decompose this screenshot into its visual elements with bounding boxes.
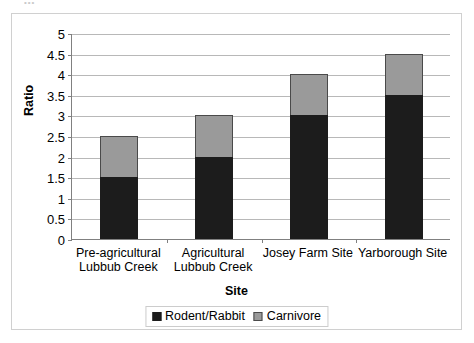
bar-stack[interactable] [195,115,233,239]
y-axis-tick-label: 3.5 [47,88,65,103]
bar-segment-rodent-rabbit[interactable] [100,177,138,239]
y-axis-tick [68,34,72,35]
x-axis-category-label: Agricultural Lubbub Creek [162,246,265,274]
y-axis-tick-label: 4.5 [47,47,65,62]
black-square-icon [152,312,161,321]
legend-label: Rodent/Rabbit [165,309,245,323]
y-axis-tick-label: 0 [58,233,65,248]
bar-stack[interactable] [385,54,423,239]
x-axis-title: Site [12,284,461,298]
bar-segment-carnivore[interactable] [290,74,328,115]
legend-item[interactable]: Carnivore [254,309,321,323]
y-axis-tick [68,116,72,117]
scan-artifact: ••• [24,0,50,6]
y-axis-tick [68,219,72,220]
bar-segment-carnivore[interactable] [195,115,233,156]
y-axis-tick-label: 2.5 [47,130,65,145]
y-axis-tick-label: 1 [58,191,65,206]
y-axis-tick [68,240,72,241]
y-axis-tick [68,96,72,97]
y-axis-tick [68,137,72,138]
y-axis-tick-label: 0.5 [47,212,65,227]
y-axis-tick [68,158,72,159]
plot-area: 54.543.532.521.510.50 [71,34,450,240]
chart-legend: Rodent/RabbitCarnivore [145,306,328,327]
x-axis-tick [262,239,263,243]
x-axis-category-label: Pre-agricultural Lubbub Creek [67,246,170,274]
gray-square-icon [254,312,263,321]
bar-segment-rodent-rabbit[interactable] [385,95,423,239]
x-axis-tick [356,239,357,243]
gridline [72,34,450,35]
y-axis-title: Ratio [22,85,36,116]
y-axis-tick [68,199,72,200]
bar-segment-carnivore[interactable] [385,54,423,95]
y-axis-tick-label: 1.5 [47,171,65,186]
bar-segment-rodent-rabbit[interactable] [195,157,233,239]
y-axis-tick-label: 5 [58,27,65,42]
bar-stack[interactable] [290,74,328,239]
legend-item[interactable]: Rodent/Rabbit [152,309,245,323]
chart-frame: Ratio 54.543.532.521.510.50 Site Rodent/… [11,13,462,330]
bar-segment-carnivore[interactable] [100,136,138,177]
bar-stack[interactable] [100,136,138,239]
x-axis-tick [167,239,168,243]
y-axis-tick [68,75,72,76]
x-axis-category-label: Yarborough Site [351,246,454,260]
y-axis-tick-label: 2 [58,150,65,165]
bar-segment-rodent-rabbit[interactable] [290,115,328,239]
legend-label: Carnivore [267,309,321,323]
x-axis-category-label: Josey Farm Site [257,246,360,260]
y-axis-tick-label: 3 [58,109,65,124]
y-axis-tick [68,178,72,179]
y-axis-tick-label: 4 [58,68,65,83]
y-axis-tick [68,55,72,56]
